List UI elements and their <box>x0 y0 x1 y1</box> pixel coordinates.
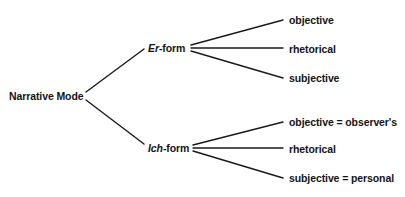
edge-root-to-er <box>86 49 144 92</box>
node-er-form: Er-form <box>148 42 185 54</box>
leaf-er-subjective: subjective <box>289 72 339 84</box>
edge-er-to-objective <box>191 20 283 45</box>
edge-ich-to-objective <box>193 122 283 145</box>
node-ich-form-prefix: Ich <box>148 142 163 154</box>
leaf-er-objective: objective <box>289 14 334 26</box>
edge-root-to-ich <box>86 100 144 144</box>
edge-er-to-subjective <box>191 51 283 78</box>
leaf-ich-rhetorical: rhetorical <box>289 143 336 155</box>
leaf-er-rhetorical: rhetorical <box>289 43 336 55</box>
node-ich-form: Ich-form <box>148 142 189 154</box>
leaf-ich-subjective: subjective = personal <box>289 172 394 184</box>
root-node-narrative-mode: Narrative Mode <box>9 90 83 102</box>
node-er-form-prefix: Er <box>148 42 159 54</box>
node-ich-form-suffix: -form <box>163 142 189 154</box>
node-er-form-suffix: -form <box>159 42 185 54</box>
leaf-ich-objective: objective = observer's <box>289 116 397 128</box>
edge-ich-to-subjective <box>193 151 283 178</box>
